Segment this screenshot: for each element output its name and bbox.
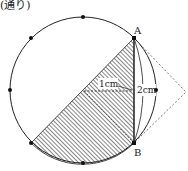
point-a [132,36,136,40]
label-1cm: 1cm [99,79,119,89]
point-bottom [81,161,85,165]
label-2cm: 2cm [137,85,157,95]
label-a: A [133,25,142,36]
point-left [8,88,12,92]
point-top [81,15,85,19]
point-b [132,141,136,145]
point-lower-left [29,141,33,145]
point-upper-left [29,36,33,40]
label-b: B [134,147,141,158]
geometry-figure: A B 1cm 2cm [0,0,188,171]
hatched-region [31,38,134,164]
